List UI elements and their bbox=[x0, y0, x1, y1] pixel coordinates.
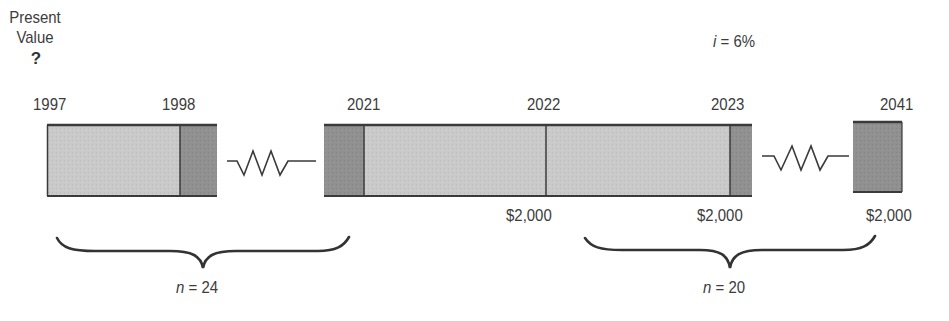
payment-label-2022: $2,000 bbox=[506, 206, 552, 226]
present-value-line2: Value bbox=[9, 28, 62, 48]
present-value-question-mark: ? bbox=[26, 49, 46, 69]
payment-label-2023: $2,000 bbox=[697, 206, 743, 226]
period-label-annuity: n = 20 bbox=[703, 278, 745, 298]
year-label-2021: 2021 bbox=[347, 95, 380, 115]
year-label-1997: 1997 bbox=[33, 95, 66, 115]
interest-rate-label: i = 6% bbox=[713, 32, 755, 52]
zigzag-icon bbox=[227, 151, 316, 175]
zigzag-icon bbox=[762, 146, 849, 170]
timeline-segment-2041 bbox=[853, 122, 902, 192]
timeline-segment-2021-2023 bbox=[324, 125, 752, 196]
period-value-annuity: = 20 bbox=[711, 278, 745, 297]
present-value-line1: Present bbox=[9, 8, 62, 28]
period-label-deferral: n = 24 bbox=[176, 278, 218, 298]
payment-label-2041: $2,000 bbox=[866, 206, 912, 226]
curly-brace-icon bbox=[585, 236, 875, 268]
timeline-diagram bbox=[0, 0, 949, 321]
period-value-deferral: = 24 bbox=[184, 278, 218, 297]
year-label-2023: 2023 bbox=[711, 95, 744, 115]
year-label-2041: 2041 bbox=[880, 95, 913, 115]
year-label-2022: 2022 bbox=[527, 95, 560, 115]
interest-rate-value: = 6% bbox=[716, 32, 755, 51]
year-label-1998: 1998 bbox=[162, 95, 195, 115]
timeline-segment-1997-1998 bbox=[47, 125, 217, 196]
curly-brace-icon bbox=[57, 237, 349, 268]
